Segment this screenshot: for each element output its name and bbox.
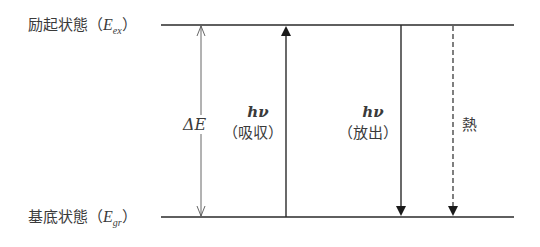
ground-energy-symbol: E — [103, 208, 113, 225]
emission-label: hν （放出） — [343, 103, 403, 142]
heat-arrow — [448, 26, 458, 216]
excited-subscript: ex — [113, 25, 122, 36]
delta-e-label: ΔE — [182, 115, 207, 134]
excited-state-name: 励起状態 — [28, 16, 88, 34]
ground-state-name: 基底状態 — [28, 208, 88, 226]
ground-state-label: 基底状態（Egr） — [28, 205, 137, 228]
ground-subscript: gr — [113, 217, 122, 228]
heat-label: 熱 — [462, 113, 477, 134]
absorption-label: hν （吸収） — [228, 103, 288, 142]
emission-symbol: hν — [343, 103, 403, 121]
absorption-text: （吸収） — [218, 121, 288, 142]
excited-energy-symbol: E — [103, 16, 113, 33]
absorption-symbol: hν — [228, 103, 288, 121]
excited-state-label: 励起状態（Eex） — [28, 13, 137, 36]
emission-text: （放出） — [333, 121, 403, 142]
